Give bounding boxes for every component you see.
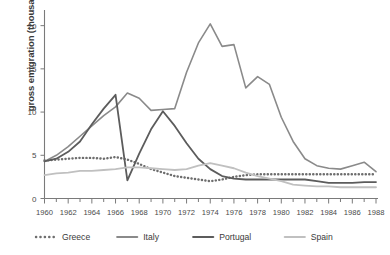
x-tick-label: 1976 bbox=[225, 208, 242, 217]
x-tick-label: 1974 bbox=[202, 208, 219, 217]
x-tick-label: 1980 bbox=[273, 208, 290, 217]
x-tick-label: 1982 bbox=[297, 208, 314, 217]
chart-legend: GreeceItalyPortugalSpain bbox=[36, 232, 333, 242]
x-tick-label: 1970 bbox=[154, 208, 171, 217]
legend-label-portugal: Portugal bbox=[219, 232, 251, 242]
x-tick-label: 1962 bbox=[60, 208, 77, 217]
x-tick-label: 1968 bbox=[131, 208, 148, 217]
legend-label-italy: Italy bbox=[143, 232, 159, 242]
y-tick-label: 0 bbox=[32, 195, 37, 204]
x-tick-label: 1984 bbox=[320, 208, 337, 217]
x-tick-label: 1978 bbox=[249, 208, 266, 217]
legend-label-spain: Spain bbox=[311, 232, 333, 242]
x-tick-label: 1960 bbox=[36, 208, 53, 217]
y-tick-label: 10 bbox=[28, 108, 37, 117]
y-axis: 05101520 bbox=[28, 10, 45, 204]
series-layer bbox=[45, 24, 377, 187]
x-axis: 1960196219641966196819701972197419761978… bbox=[36, 199, 384, 217]
legend-label-greece: Greece bbox=[62, 232, 90, 242]
series-line-italy bbox=[45, 24, 377, 172]
x-tick-label: 1964 bbox=[83, 208, 100, 217]
x-tick-label: 1986 bbox=[344, 208, 361, 217]
x-tick-label: 1966 bbox=[107, 208, 124, 217]
x-tick-label: 1988 bbox=[368, 208, 385, 217]
x-tick-label: 1972 bbox=[178, 208, 195, 217]
series-line-spain bbox=[45, 163, 377, 187]
emigration-line-chart: gross emigration (thousands) 05101520 19… bbox=[0, 0, 390, 255]
y-tick-label: 20 bbox=[28, 22, 37, 31]
y-tick-label: 15 bbox=[28, 65, 37, 74]
series-line-portugal bbox=[45, 95, 377, 183]
chart-canvas: 05101520 1960196219641966196819701972197… bbox=[0, 0, 390, 255]
y-tick-label: 5 bbox=[32, 151, 37, 160]
